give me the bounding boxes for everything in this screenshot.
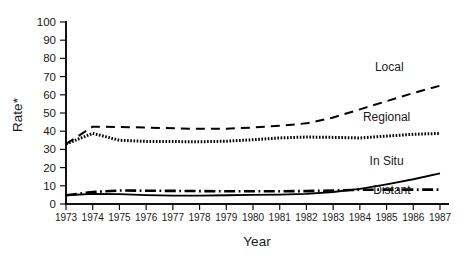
y-tick-label: 90 — [43, 34, 56, 46]
x-tick-label: 1981 — [269, 212, 292, 223]
y-tick-label: 10 — [43, 180, 56, 192]
chart-figure: 0102030405060708090100 19731974197519761… — [0, 0, 475, 260]
x-tick-label: 1982 — [295, 212, 318, 223]
y-tick-label: 100 — [37, 16, 56, 28]
y-tick-label: 80 — [43, 52, 56, 64]
series-label-in-situ: In Situ — [370, 154, 404, 168]
x-tick-label: 1979 — [215, 212, 238, 223]
line-chart: 0102030405060708090100 19731974197519761… — [0, 0, 475, 260]
y-tick-label: 30 — [43, 143, 56, 155]
x-tick-label: 1975 — [108, 212, 131, 223]
y-axis-title: Rate* — [10, 97, 25, 132]
x-tick-label: 1977 — [162, 212, 185, 223]
x-tick-label: 1985 — [375, 212, 398, 223]
x-tick-label: 1980 — [242, 212, 265, 223]
y-tick-label: 60 — [43, 89, 56, 101]
x-tick-label: 1983 — [322, 212, 345, 223]
x-tick-label: 1973 — [55, 212, 78, 223]
x-axis-title: Year — [243, 234, 271, 249]
x-tick-label: 1986 — [402, 212, 425, 223]
y-tick-label: 70 — [43, 71, 56, 83]
x-tick-label: 1984 — [349, 212, 372, 223]
x-tick-labels: 1973197419751976197719781979198019811982… — [55, 212, 452, 223]
x-tick-label: 1976 — [135, 212, 158, 223]
y-tick-label: 0 — [50, 198, 56, 210]
series-label-local: Local — [375, 60, 404, 74]
series-label-regional: Regional — [363, 110, 410, 124]
x-tick-label: 1987 — [429, 212, 452, 223]
y-tick-label: 40 — [43, 125, 56, 137]
series-label-distant: Distant — [373, 183, 411, 197]
y-tick-label: 50 — [43, 107, 56, 119]
x-tick-label: 1974 — [82, 212, 105, 223]
x-tick-label: 1978 — [188, 212, 211, 223]
y-tick-label: 20 — [43, 162, 56, 174]
